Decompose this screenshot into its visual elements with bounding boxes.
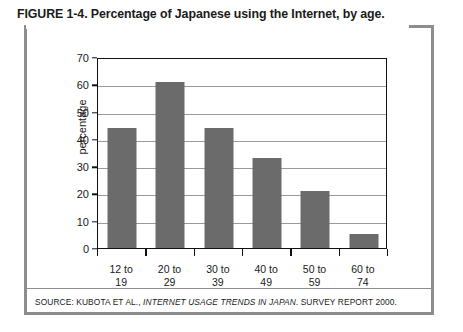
x-axis-tick-mark <box>339 249 340 256</box>
y-axis-tick-label: 70 <box>65 52 89 64</box>
x-axis-tick-label-line: 60 to <box>351 263 374 276</box>
x-axis-tick-label-line: 39 <box>206 276 229 289</box>
bar[interactable] <box>156 82 185 248</box>
x-axis-tick-label-line: 59 <box>303 276 326 289</box>
source-suffix: . SURVEY REPORT 2000. <box>296 297 397 307</box>
x-axis-tick-mark <box>387 249 388 256</box>
x-axis-tick-label-line: 40 to <box>254 263 277 276</box>
x-axis-tick-mark <box>145 249 146 256</box>
bar[interactable] <box>253 158 282 248</box>
x-axis-tick-mark <box>242 249 243 256</box>
x-axis-tick-mark <box>290 249 291 256</box>
x-axis-tick-label: 20 to29 <box>158 263 181 288</box>
x-axis-tick-label-line: 20 to <box>158 263 181 276</box>
plot-area <box>97 58 387 249</box>
x-axis-tick-label-line: 12 to <box>109 263 132 276</box>
x-axis-tick-label-line: 74 <box>351 276 374 289</box>
figure-title: FIGURE 1-4. Percentage of Japanese using… <box>17 7 417 21</box>
chart-plot-wrapper: percentage 010203040506070 12 to1920 to2… <box>24 25 434 315</box>
y-axis-tick-label: 40 <box>65 134 89 146</box>
x-axis-tick-label: 30 to39 <box>206 263 229 288</box>
x-axis-tick-label-line: 19 <box>109 276 132 289</box>
bar[interactable] <box>108 128 137 248</box>
y-axis-tick-label: 60 <box>65 79 89 91</box>
x-axis-tick-label: 60 to74 <box>351 263 374 288</box>
y-axis-tick-label: 20 <box>65 188 89 200</box>
bar-slot <box>340 59 388 248</box>
source-divider <box>27 288 431 289</box>
y-axis-tick-label: 0 <box>65 243 89 255</box>
bar-slot <box>195 59 243 248</box>
x-axis-tick-label-line: 29 <box>158 276 181 289</box>
x-axis-tick-label: 12 to19 <box>109 263 132 288</box>
x-axis-tick-label-line: 50 to <box>303 263 326 276</box>
x-axis-tick-label: 40 to49 <box>254 263 277 288</box>
source-prefix: SOURCE: KUBOTA ET AL., <box>35 297 143 307</box>
x-axis-tick-label-line: 30 to <box>206 263 229 276</box>
source-note: SOURCE: KUBOTA ET AL., INTERNET USAGE TR… <box>35 297 397 307</box>
bar-slot <box>243 59 291 248</box>
y-axis-tick-label: 10 <box>65 216 89 228</box>
source-title-italic: INTERNET USAGE TRENDS IN JAPAN <box>143 297 296 307</box>
y-axis-tick-label: 30 <box>65 161 89 173</box>
x-axis-tick-label-line: 49 <box>254 276 277 289</box>
x-axis-tick-label: 50 to59 <box>303 263 326 288</box>
x-axis-tick-mark <box>194 249 195 256</box>
bar-slot <box>98 59 146 248</box>
bar[interactable] <box>301 191 330 248</box>
bar-series <box>98 59 386 248</box>
x-axis-tick-mark <box>97 249 98 256</box>
figure-container: FIGURE 1-4. Percentage of Japanese using… <box>0 0 463 332</box>
bar[interactable] <box>204 128 233 248</box>
y-axis-tick-label: 50 <box>65 107 89 119</box>
bar-slot <box>291 59 339 248</box>
bar[interactable] <box>349 234 378 248</box>
bar-slot <box>146 59 194 248</box>
